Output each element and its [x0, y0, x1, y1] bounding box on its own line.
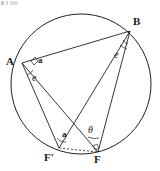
angle-label-e-at-b: e	[114, 50, 118, 60]
angle-label-e-at-a: e	[32, 73, 36, 83]
angle-arc-theta-at-F	[88, 137, 99, 139]
angle-label-theta-at-f: θ	[88, 125, 93, 135]
chord-a-fprime	[22, 63, 59, 148]
vertex-label-b: B	[133, 16, 140, 27]
chord-fprime-f-dashed	[59, 148, 98, 152]
vertex-label-a: A	[6, 56, 14, 67]
angle-label-a-at-a: a	[38, 56, 43, 65]
vertex-label-f-prime: F'	[44, 152, 54, 163]
vertex-label-f: F	[94, 154, 101, 165]
angle-label-a-at-f-prime: a	[62, 130, 67, 139]
circumscribed-circle	[11, 14, 151, 154]
geometry-figure: A B F' F a e e a θ	[0, 0, 160, 171]
